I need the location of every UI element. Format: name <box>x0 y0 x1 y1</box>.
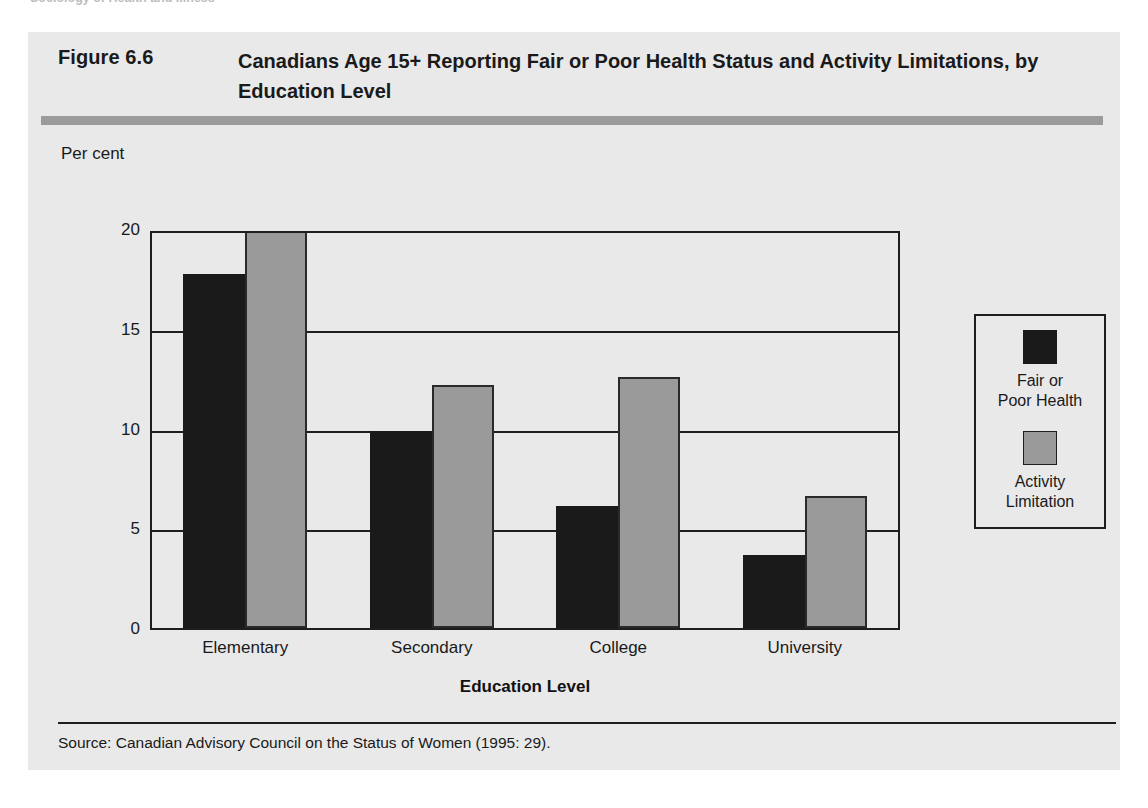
x-tick-elementary: Elementary <box>152 638 339 658</box>
y-tick-20: 20 <box>121 220 140 240</box>
figure-panel: Figure 6.6 Canadians Age 15+ Reporting F… <box>28 32 1120 770</box>
x-axis-title: Education Level <box>152 677 898 697</box>
legend-entry-fair-or-poor-health[interactable]: Fair or Poor Health <box>998 330 1083 411</box>
bar-university-activity-limitation[interactable] <box>805 496 867 628</box>
legend: Fair or Poor Health Activity Limitation <box>974 314 1106 529</box>
bar-university-fair-or-poor-health[interactable] <box>743 555 805 628</box>
bar-group-secondary <box>339 233 526 628</box>
x-axis-tick-labels: Elementary Secondary College University <box>152 638 898 658</box>
y-tick-0: 0 <box>131 619 140 639</box>
legend-entry-activity-limitation[interactable]: Activity Limitation <box>1006 431 1074 512</box>
bar-group-elementary <box>152 233 339 628</box>
bar-college-activity-limitation[interactable] <box>618 377 680 628</box>
bar-elementary-fair-or-poor-health[interactable] <box>183 274 245 628</box>
figure-number: Figure 6.6 <box>58 46 238 69</box>
source-divider-rule <box>58 722 1116 724</box>
x-tick-secondary: Secondary <box>339 638 526 658</box>
source-note: Source: Canadian Advisory Council on the… <box>58 734 551 752</box>
y-tick-15: 15 <box>121 320 140 340</box>
bar-elementary-activity-limitation[interactable] <box>245 233 307 628</box>
y-tick-5: 5 <box>131 519 140 539</box>
legend-swatch-activity-limitation <box>1023 431 1057 465</box>
legend-label-fair-or-poor-health: Fair or Poor Health <box>998 371 1083 411</box>
legend-label-activity-limitation: Activity Limitation <box>1006 472 1074 512</box>
bar-college-fair-or-poor-health[interactable] <box>556 506 618 629</box>
x-tick-college: College <box>525 638 712 658</box>
title-divider-rule <box>41 116 1103 125</box>
figure-title: Canadians Age 15+ Reporting Fair or Poor… <box>238 46 1090 106</box>
bars-layer <box>152 233 898 628</box>
y-axis-title: Per cent <box>61 144 124 164</box>
y-axis-tick-labels: 20 15 10 5 0 <box>88 231 140 630</box>
bar-secondary-fair-or-poor-health[interactable] <box>370 431 432 629</box>
x-tick-university: University <box>712 638 899 658</box>
y-tick-10: 10 <box>121 420 140 440</box>
bar-group-university <box>712 233 899 628</box>
chart-area: Per cent 20 15 10 5 0 <box>28 132 1120 712</box>
legend-swatch-fair-or-poor-health <box>1023 330 1057 364</box>
bar-secondary-activity-limitation[interactable] <box>432 385 494 628</box>
running-head: Sociology of Health and Illness <box>30 0 630 7</box>
bar-group-college <box>525 233 712 628</box>
